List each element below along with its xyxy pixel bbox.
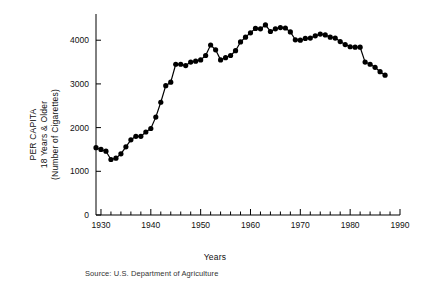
y-tick-label: 4000 xyxy=(70,35,89,45)
x-tick-label: 1970 xyxy=(291,220,310,230)
data-point xyxy=(308,35,313,40)
y-tick-label: 0 xyxy=(84,210,89,220)
data-point xyxy=(173,62,178,67)
data-point xyxy=(248,30,253,35)
data-point xyxy=(208,42,213,47)
data-point xyxy=(263,22,268,27)
x-tick-label: 1930 xyxy=(92,220,111,230)
x-tick-label: 1940 xyxy=(141,220,160,230)
data-point xyxy=(128,137,133,142)
data-point xyxy=(293,37,298,42)
data-point xyxy=(343,42,348,47)
data-point xyxy=(198,57,203,62)
chart-figure: PER CAPITA 18 Years & Older (Number of C… xyxy=(0,0,430,291)
data-point xyxy=(203,53,208,58)
data-point xyxy=(338,39,343,44)
data-point xyxy=(288,29,293,34)
data-point xyxy=(138,134,143,139)
data-point xyxy=(133,134,138,139)
x-tick-label: 1990 xyxy=(391,220,410,230)
data-point xyxy=(193,59,198,64)
data-point xyxy=(348,44,353,49)
data-point xyxy=(103,149,108,154)
data-point xyxy=(377,69,382,74)
data-point xyxy=(168,80,173,85)
data-point xyxy=(243,35,248,40)
data-point xyxy=(303,36,308,41)
data-point xyxy=(333,35,338,40)
data-point xyxy=(163,83,168,88)
data-point xyxy=(213,47,218,52)
data-point xyxy=(98,147,103,152)
data-point xyxy=(183,63,188,68)
data-point xyxy=(278,25,283,30)
y-tick-label: 1000 xyxy=(70,166,89,176)
data-point xyxy=(372,65,377,70)
data-point xyxy=(188,59,193,64)
data-point xyxy=(118,151,123,156)
data-point xyxy=(223,55,228,60)
data-point xyxy=(358,45,363,50)
y-tick-label: 2000 xyxy=(70,123,89,133)
data-point xyxy=(318,31,323,36)
data-point xyxy=(268,29,273,34)
data-point xyxy=(323,32,328,37)
x-axis-title: Years xyxy=(0,252,430,262)
axis-lines xyxy=(96,14,400,215)
data-point xyxy=(313,33,318,38)
x-tick-label: 1950 xyxy=(191,220,210,230)
data-point xyxy=(158,100,163,105)
source-note: Source: U.S. Department of Agriculture xyxy=(85,269,218,278)
data-point xyxy=(283,25,288,30)
x-tick-label: 1980 xyxy=(341,220,360,230)
data-point xyxy=(273,26,278,31)
data-points xyxy=(93,22,387,162)
data-point xyxy=(328,35,333,40)
data-point xyxy=(238,39,243,44)
data-point xyxy=(93,145,98,150)
data-point xyxy=(233,48,238,53)
data-point xyxy=(258,26,263,31)
data-point xyxy=(298,38,303,43)
y-tick-label: 3000 xyxy=(70,79,89,89)
data-point xyxy=(153,115,158,120)
data-point xyxy=(108,157,113,162)
data-point xyxy=(113,156,118,161)
data-point xyxy=(143,129,148,134)
series-path xyxy=(96,25,385,160)
line-chart-plot: 01000200030004000 1930194019501960197019… xyxy=(0,0,430,291)
data-point xyxy=(382,73,387,78)
data-line xyxy=(96,25,385,160)
data-point xyxy=(253,26,258,31)
x-axis-ticks: 1930194019501960197019801990 xyxy=(92,209,410,230)
data-point xyxy=(218,57,223,62)
data-point xyxy=(178,62,183,67)
data-point xyxy=(363,59,368,64)
data-point xyxy=(123,144,128,149)
data-point xyxy=(148,126,153,131)
data-point xyxy=(228,53,233,58)
x-tick-label: 1960 xyxy=(241,220,260,230)
data-point xyxy=(353,45,358,50)
data-point xyxy=(368,62,373,67)
